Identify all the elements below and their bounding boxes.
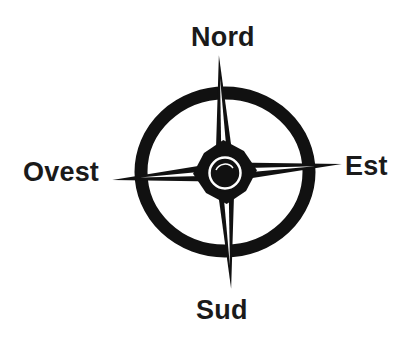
compass-hub	[206, 154, 244, 192]
compass-rose-icon	[0, 0, 415, 342]
